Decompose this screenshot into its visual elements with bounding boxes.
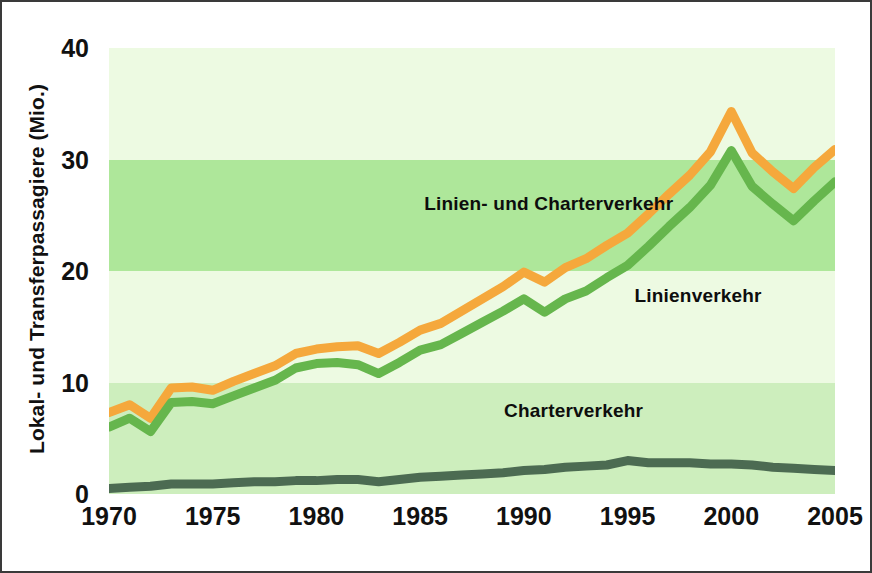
y-tick-30: 30 xyxy=(61,145,89,174)
y-tick-20: 20 xyxy=(61,257,89,286)
chart-figure: Lokal- und Transferpassagiere (Mio.) 010… xyxy=(0,0,872,573)
annotation-linien-und-charterverkehr: Linien- und Charterverkehr xyxy=(424,193,673,215)
x-tick-1980: 1980 xyxy=(289,502,345,531)
y-tick-10: 10 xyxy=(61,368,89,397)
series-lines xyxy=(109,48,835,494)
x-tick-1970: 1970 xyxy=(81,502,137,531)
x-tick-2000: 2000 xyxy=(703,502,759,531)
series-line-charterverkehr xyxy=(109,461,835,489)
x-tick-1995: 1995 xyxy=(600,502,656,531)
y-axis-tick-labels: 010203040 xyxy=(2,48,97,494)
y-tick-40: 40 xyxy=(61,34,89,63)
x-axis-tick-labels: 19701975198019851990199520002005 xyxy=(109,502,835,552)
plot-area: Linien- und CharterverkehrLinienverkehrC… xyxy=(109,48,835,494)
annotation-linienverkehr: Linienverkehr xyxy=(634,285,761,307)
x-tick-1990: 1990 xyxy=(496,502,552,531)
x-tick-2005: 2005 xyxy=(807,502,863,531)
annotation-charterverkehr: Charterverkehr xyxy=(504,400,643,422)
x-tick-1975: 1975 xyxy=(185,502,241,531)
x-tick-1985: 1985 xyxy=(392,502,448,531)
